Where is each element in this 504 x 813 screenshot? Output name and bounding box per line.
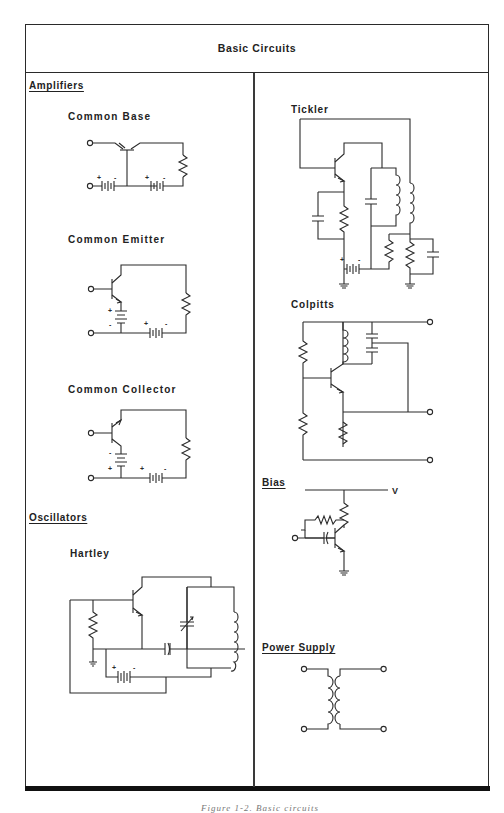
svg-text:-: - [358, 256, 361, 263]
svg-text:-: - [165, 320, 168, 327]
svg-text:-: - [114, 174, 117, 181]
bias-schematic: V [300, 489, 460, 589]
power-supply-transformer-schematic [300, 664, 400, 734]
primary-terminal-icon [301, 726, 306, 731]
circuit-label-common-collector: Common Collector [68, 384, 177, 395]
svg-text:+: + [108, 465, 112, 472]
output-terminal-icon [88, 475, 93, 480]
output-terminal-icon [87, 183, 92, 188]
base-wire [94, 279, 112, 299]
svg-text:-: - [109, 449, 112, 456]
divider-resistors-icon [299, 322, 307, 460]
emitter-battery-icon [115, 454, 127, 478]
tank-inductor-icon [371, 168, 400, 226]
ground-icon [89, 649, 97, 666]
collector-wire [112, 410, 186, 438]
tapped-inductor-icon [231, 612, 238, 671]
circuit-label-bias: Bias [262, 477, 286, 488]
input-terminal-icon [88, 286, 93, 291]
ground-icon [405, 274, 415, 288]
resistor-icon [406, 234, 414, 274]
circuit-label-tickler: Tickler [291, 104, 329, 115]
svg-text:-: - [109, 321, 112, 328]
ground-icon [339, 571, 349, 575]
section-heading-oscillators: Oscillators [29, 512, 87, 523]
collector-battery-icon [94, 328, 174, 338]
secondary-terminal-icon [381, 666, 386, 671]
figure-bottom-rule [25, 786, 490, 791]
emitter-rc-icon [312, 192, 348, 277]
circuit-label-colpitts: Colpitts [291, 299, 335, 310]
emitter-wire [335, 174, 344, 192]
emitter-wire [335, 544, 344, 571]
svg-text:+: + [340, 256, 344, 263]
svg-text:-: - [163, 174, 166, 181]
inductor-icon [343, 322, 372, 364]
circuit-label-common-emitter: Common Emitter [68, 234, 165, 245]
svg-text:-: - [133, 664, 136, 671]
battery-icon [106, 649, 211, 683]
tank-capacitor-icon [365, 168, 377, 226]
svg-text:+: + [144, 320, 148, 327]
base-wire [303, 368, 331, 388]
svg-text:+: + [140, 465, 144, 472]
svg-text:+: + [112, 664, 116, 671]
svg-text:V: V [392, 486, 398, 496]
bias-resistor-icon [371, 226, 410, 269]
common-collector-schematic: - + + - [88, 408, 198, 488]
input-terminal-icon [292, 535, 297, 540]
collector-battery-icon [94, 473, 174, 483]
collector-wire [112, 265, 186, 293]
resistor-icon [174, 293, 190, 333]
column-divider [253, 73, 255, 787]
section-heading-amplifiers: Amplifiers [29, 80, 84, 91]
figure-title: Basic Circuits [218, 42, 296, 54]
common-emitter-schematic: + - + - [88, 263, 198, 343]
primary-winding-icon [307, 669, 333, 729]
battery-icon [344, 264, 371, 274]
primary-terminal-icon [301, 666, 306, 671]
output-terminal-icon [427, 457, 432, 462]
tank-left [187, 587, 231, 668]
colpitts-schematic [300, 318, 435, 458]
battery-icon [93, 181, 165, 191]
emitter-wire [93, 143, 123, 149]
input-terminal-icon [88, 430, 93, 435]
secondary-terminal-icon [381, 726, 386, 731]
svg-text:+: + [108, 307, 112, 314]
svg-text:-: - [164, 465, 167, 472]
common-base-schematic: + - + - [85, 138, 195, 198]
collector-wire [331, 322, 343, 372]
figure-header: Basic Circuits [25, 24, 489, 73]
collector-resistor-icon [340, 490, 348, 528]
bypass-capacitor-icon [410, 239, 439, 274]
output-terminal-icon [88, 330, 93, 335]
load-return [165, 177, 183, 186]
base-wire [94, 423, 112, 443]
emitter-battery-icon [115, 311, 127, 333]
tickler-coil-icon [410, 183, 414, 234]
svg-text:+: + [145, 174, 149, 181]
ground-icon [339, 277, 349, 288]
capacitor-curve [168, 643, 170, 655]
collector-wire [131, 143, 183, 155]
base-wire [70, 590, 133, 613]
resistor-icon [179, 155, 187, 177]
tank-top [187, 587, 234, 612]
tap-wire [372, 343, 408, 412]
input-terminal-icon [87, 140, 92, 145]
tickler-schematic: + - [300, 119, 460, 294]
emitter-wire [112, 295, 121, 311]
collector-wire [335, 525, 344, 533]
circuit-label-common-base: Common Base [68, 111, 151, 122]
output-terminal-icon [427, 319, 432, 324]
resistor-icon [174, 438, 190, 478]
base-wire [305, 528, 335, 548]
secondary-winding-icon [335, 669, 381, 729]
tickler-feedback-top [300, 119, 410, 183]
circuit-label-hartley: Hartley [70, 548, 110, 559]
figure-caption: Figure 1-2. Basic circuits [150, 803, 370, 813]
circuit-label-power-supply: Power Supply [262, 642, 335, 653]
base-wire [300, 119, 335, 178]
hartley-schematic: + - [70, 575, 250, 695]
